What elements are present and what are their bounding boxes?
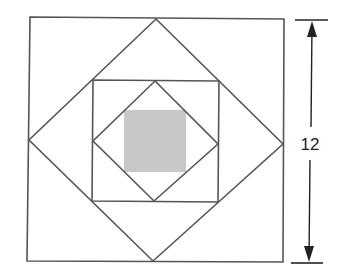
nested-squares-diagram: 12 (0, 0, 344, 278)
dimension-indicator: 12 (291, 20, 328, 263)
dimension-line-upper (311, 24, 312, 127)
dimension-line-lower (309, 160, 310, 259)
arrow-up-icon (307, 21, 317, 37)
arrow-down-icon (304, 246, 314, 262)
shaded-square (124, 110, 186, 172)
dimension-label: 12 (301, 135, 320, 154)
